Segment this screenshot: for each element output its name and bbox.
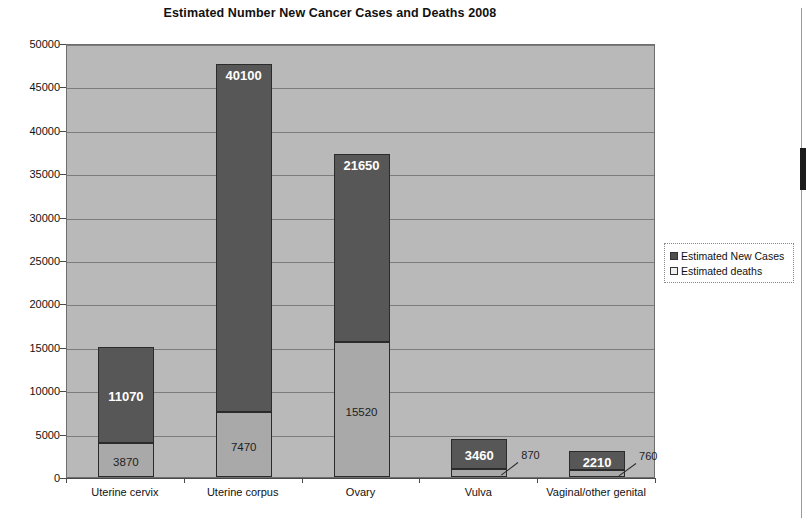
x-tick-label: Uterine corpus <box>207 486 279 498</box>
bar-group[interactable]: 2210 <box>569 451 625 477</box>
bar-value-callout-deaths: 760 <box>639 450 657 462</box>
y-tick-label: 15000 <box>2 342 60 354</box>
bar-value-label-new-cases: 2210 <box>569 455 625 470</box>
x-tick-label: Uterine cervix <box>91 486 158 498</box>
x-tick-mark <box>537 478 538 483</box>
y-tick-label: 45000 <box>2 81 60 93</box>
plot-area: 1107038704010074702165015520346087022107… <box>66 44 655 478</box>
bar-segment-deaths[interactable] <box>451 469 507 477</box>
y-tick-label: 10000 <box>2 385 60 397</box>
scan-edge-artifact <box>801 8 802 518</box>
bar-value-label-new-cases: 3460 <box>451 448 507 463</box>
chart-figure: Estimated Number New Cancer Cases and De… <box>0 0 811 518</box>
chart-legend: Estimated New Cases Estimated deaths <box>664 243 794 283</box>
x-tick-label: Vulva <box>465 486 492 498</box>
bar-value-label-deaths: 3870 <box>98 456 154 468</box>
bar-value-label-new-cases: 11070 <box>98 389 154 404</box>
x-tick-mark <box>655 478 656 483</box>
y-tick-label: 20000 <box>2 298 60 310</box>
y-tick-label: 0 <box>2 472 60 484</box>
x-tick-label: Vaginal/other genital <box>546 486 645 498</box>
y-tick-label: 25000 <box>2 255 60 267</box>
y-tick-label: 40000 <box>2 125 60 137</box>
bar-segment-new-cases[interactable] <box>216 64 272 412</box>
legend-item-deaths: Estimated deaths <box>670 263 789 278</box>
gridline <box>67 132 654 133</box>
y-tick-label: 35000 <box>2 168 60 180</box>
legend-label-new-cases: Estimated New Cases <box>681 250 784 262</box>
y-tick-label: 50000 <box>2 38 60 50</box>
x-tick-mark <box>419 478 420 483</box>
bar-value-label-deaths: 7470 <box>216 441 272 453</box>
bar-value-label-new-cases: 40100 <box>216 68 272 83</box>
x-tick-mark <box>302 478 303 483</box>
bar-group[interactable]: 401007470 <box>216 64 272 477</box>
scan-edge-mark-artifact <box>800 148 806 190</box>
bar-value-callout-deaths: 870 <box>521 449 539 461</box>
x-tick-label: Ovary <box>346 486 375 498</box>
chart-title: Estimated Number New Cancer Cases and De… <box>0 6 660 20</box>
bar-group[interactable]: 3460 <box>451 439 507 477</box>
y-tick-label: 5000 <box>2 429 60 441</box>
bar-group[interactable]: 110703870 <box>98 347 154 477</box>
x-axis: Uterine cervixUterine corpusOvaryVulvaVa… <box>66 486 655 506</box>
x-axis-line <box>66 478 655 479</box>
bar-segment-new-cases[interactable] <box>334 154 390 342</box>
legend-swatch-deaths-icon <box>670 267 678 275</box>
y-axis: 0500010000150002000025000300003500040000… <box>0 44 60 478</box>
bar-segment-deaths[interactable] <box>569 470 625 477</box>
legend-label-deaths: Estimated deaths <box>681 265 762 277</box>
gridline <box>67 45 654 46</box>
bar-value-label-new-cases: 21650 <box>334 158 390 173</box>
y-tick-label: 30000 <box>2 212 60 224</box>
x-tick-mark <box>184 478 185 483</box>
bar-value-label-deaths: 15520 <box>334 406 390 418</box>
legend-item-new-cases: Estimated New Cases <box>670 248 789 263</box>
legend-swatch-new-cases-icon <box>670 252 678 260</box>
bar-group[interactable]: 2165015520 <box>334 154 390 477</box>
x-tick-mark <box>66 478 67 483</box>
gridline <box>67 88 654 89</box>
